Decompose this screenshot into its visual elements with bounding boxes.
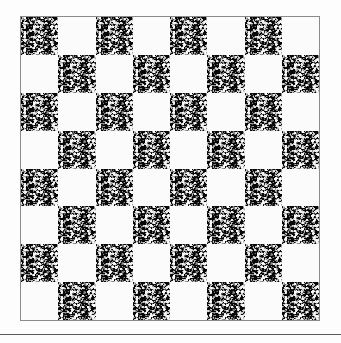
checkerboard-square-dark [96, 244, 133, 282]
checkerboard-square-light [170, 131, 207, 169]
checkerboard-square-dark [21, 93, 58, 131]
checkerboard-square-dark [207, 131, 244, 169]
checkerboard-square-dark [21, 244, 58, 282]
checkerboard-square-dark [207, 206, 244, 244]
checkerboard-square-light [21, 206, 58, 244]
checkerboard-square-dark [21, 17, 58, 55]
checkerboard-square-light [282, 17, 319, 55]
checkerboard-square-dark [133, 131, 170, 169]
checkerboard-square-light [282, 169, 319, 207]
checkerboard-square-light [96, 282, 133, 320]
checkerboard-square-light [58, 169, 95, 207]
checkerboard-square-dark [96, 169, 133, 207]
checkerboard-square-light [58, 93, 95, 131]
checkerboard-square-dark [245, 93, 282, 131]
checkerboard-square-dark [96, 17, 133, 55]
checkerboard-square-light [207, 169, 244, 207]
checkerboard-square-light [245, 55, 282, 93]
checkerboard-square-dark [170, 169, 207, 207]
horizontal-rule-divider [0, 334, 341, 335]
checkerboard-square-dark [58, 282, 95, 320]
checkerboard-square-dark [207, 55, 244, 93]
checkerboard-square-dark [58, 131, 95, 169]
checkerboard-square-light [21, 55, 58, 93]
checkerboard-square-dark [170, 93, 207, 131]
checkerboard-square-dark [133, 55, 170, 93]
checkerboard-square-light [282, 93, 319, 131]
checkerboard-square-light [58, 17, 95, 55]
checkerboard-square-light [207, 17, 244, 55]
checkerboard-square-dark [170, 17, 207, 55]
checkerboard-square-light [133, 17, 170, 55]
checkerboard-square-light [170, 55, 207, 93]
checkerboard-square-light [207, 93, 244, 131]
checkerboard-square-dark [282, 206, 319, 244]
checkerboard-square-dark [58, 55, 95, 93]
checkerboard-square-dark [282, 55, 319, 93]
checkerboard-square-light [21, 282, 58, 320]
checkerboard-square-light [170, 282, 207, 320]
checkerboard-square-light [133, 169, 170, 207]
checkerboard-square-dark [96, 93, 133, 131]
checkerboard-square-dark [282, 282, 319, 320]
checkerboard-square-dark [245, 169, 282, 207]
checkerboard-square-dark [58, 206, 95, 244]
checkerboard-square-light [58, 244, 95, 282]
checkerboard-square-light [245, 206, 282, 244]
checkerboard-square-dark [245, 17, 282, 55]
checkerboard-square-dark [245, 244, 282, 282]
checkerboard-square-dark [282, 131, 319, 169]
checkerboard-square-light [245, 282, 282, 320]
checkerboard-square-light [133, 244, 170, 282]
checkerboard-square-light [282, 244, 319, 282]
checkerboard-square-light [96, 55, 133, 93]
checkerboard-square-light [96, 131, 133, 169]
checkerboard-square-dark [21, 169, 58, 207]
checkerboard-square-light [170, 206, 207, 244]
checkerboard-square-dark [133, 206, 170, 244]
checkerboard-square-dark [133, 282, 170, 320]
checkerboard-square-light [207, 244, 244, 282]
checkerboard-square-light [96, 206, 133, 244]
checkerboard-figure [0, 0, 341, 343]
checkerboard-square-light [133, 93, 170, 131]
checkerboard-square-dark [170, 244, 207, 282]
checkerboard-grid [20, 16, 320, 321]
checkerboard-square-light [245, 131, 282, 169]
checkerboard-square-dark [207, 282, 244, 320]
checkerboard-square-light [21, 131, 58, 169]
